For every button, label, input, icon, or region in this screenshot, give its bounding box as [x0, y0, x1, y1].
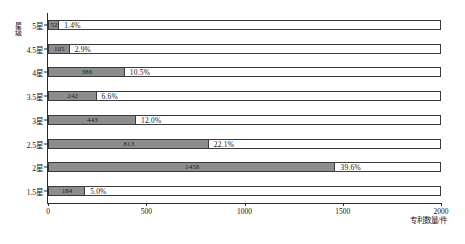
y-axis-tick — [44, 24, 47, 25]
bar-row: 3星44312.0% — [47, 108, 441, 132]
bar-frame[interactable]: 44312.0% — [48, 115, 441, 125]
y-axis-title: 星级 — [8, 22, 22, 62]
y-axis-tick — [44, 191, 47, 192]
x-axis-tick-label: 0 — [46, 207, 50, 216]
plot-area: 5星521.4%4.5星1052.9%4星38610.5%3.5星2426.6%… — [47, 13, 441, 203]
bar-percent-label: 2.9% — [75, 44, 91, 53]
category-label: 2星 — [32, 162, 43, 173]
bar-value-label: 443 — [87, 116, 98, 124]
category-label: 3星 — [32, 114, 43, 125]
category-label: 4星 — [32, 67, 43, 78]
bar-rows: 5星521.4%4.5星1052.9%4星38610.5%3.5星2426.6%… — [47, 13, 441, 203]
category-label: 2.5星 — [27, 138, 43, 149]
x-axis-tick-label: 1500 — [335, 207, 350, 216]
bar-row: 4星38610.5% — [47, 61, 441, 85]
bar-row: 5星521.4% — [47, 13, 441, 37]
category-label: 4.5星 — [27, 43, 43, 54]
y-axis-tick — [44, 119, 47, 120]
x-axis-tick — [343, 203, 344, 206]
bar-frame[interactable]: 145839.6% — [48, 162, 441, 172]
bar-percent-label: 5.0% — [90, 187, 106, 196]
category-label: 3.5星 — [27, 91, 43, 102]
bar-row: 2.5星81322.1% — [47, 132, 441, 156]
bar-value-label: 1458 — [185, 163, 199, 171]
bar-row: 1.5星1845.0% — [47, 179, 441, 203]
y-axis-tick — [44, 72, 47, 73]
x-axis-tick-label: 500 — [141, 207, 152, 216]
x-axis-tick — [245, 203, 246, 206]
bar-frame[interactable]: 2426.6% — [48, 91, 441, 101]
bar-value-label: 52 — [50, 21, 57, 29]
chart-figure: 星级 5星521.4%4.5星1052.9%4星38610.5%3.5星2426… — [0, 0, 465, 244]
bar-percent-label: 12.0% — [141, 115, 161, 124]
bar-frame[interactable]: 38610.5% — [48, 67, 441, 77]
bar-value-label: 242 — [67, 92, 78, 100]
bar-frame[interactable]: 81322.1% — [48, 139, 441, 149]
bar-percent-label: 39.6% — [340, 163, 360, 172]
x-axis-title: 专利数量/件 — [410, 214, 447, 225]
bar-row: 3.5星2426.6% — [47, 84, 441, 108]
y-axis-tick — [44, 143, 47, 144]
x-axis-tick-label: 1000 — [237, 207, 252, 216]
category-label: 1.5星 — [27, 186, 43, 197]
bar-row: 4.5星1052.9% — [47, 37, 441, 61]
bar-frame[interactable]: 521.4% — [48, 20, 441, 30]
x-axis-tick — [48, 203, 49, 206]
bar-value-label: 813 — [123, 140, 134, 148]
y-axis-tick — [44, 96, 47, 97]
bar-row: 2星145839.6% — [47, 156, 441, 180]
y-axis-tick — [44, 167, 47, 168]
x-axis-tick — [441, 203, 442, 206]
bar-value-label: 386 — [82, 68, 93, 76]
bar-percent-label: 1.4% — [64, 20, 80, 29]
bar-value-label: 184 — [62, 187, 73, 195]
bar-frame[interactable]: 1845.0% — [48, 186, 441, 196]
bar-frame[interactable]: 1052.9% — [48, 44, 441, 54]
bar-percent-label: 10.5% — [130, 68, 150, 77]
x-axis: 0500100015002000 — [47, 203, 441, 204]
bar-percent-label: 6.6% — [102, 92, 118, 101]
bar-percent-label: 22.1% — [214, 139, 234, 148]
category-label: 5星 — [32, 19, 43, 30]
y-axis-tick — [44, 48, 47, 49]
bar-value-label: 105 — [54, 45, 65, 53]
x-axis-tick — [146, 203, 147, 206]
